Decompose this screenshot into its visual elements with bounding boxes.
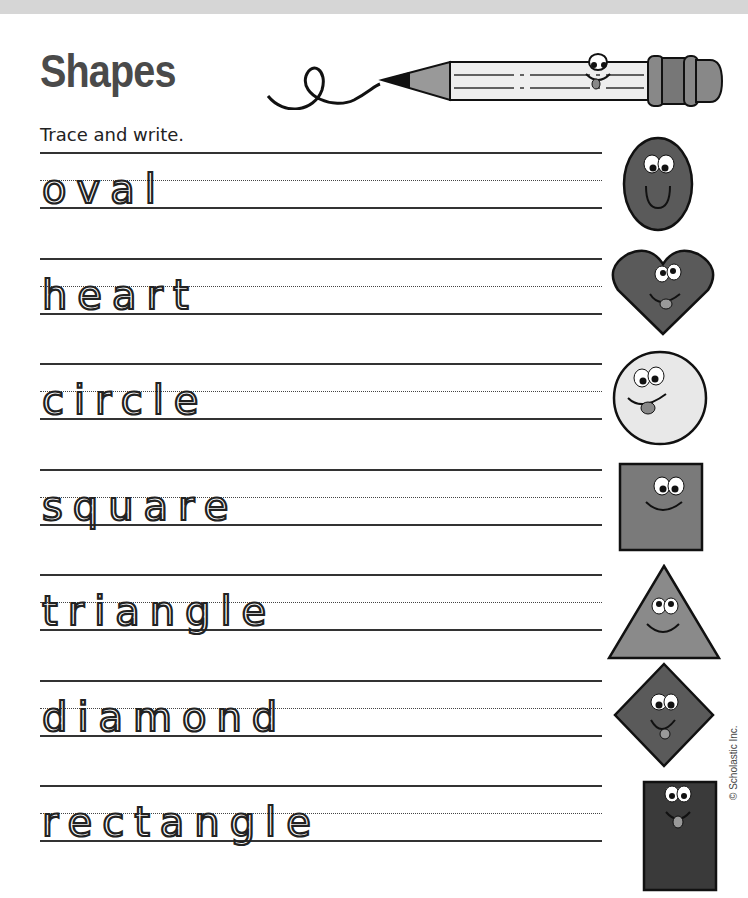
top-band [0,0,748,14]
writing-row-diamond[interactable]: diamond [40,680,602,737]
top-line [40,363,602,365]
writing-row-triangle[interactable]: triangle [40,574,602,631]
writing-row-oval[interactable]: oval [40,152,602,209]
trace-word: triangle [42,588,276,634]
top-line [40,680,602,682]
top-line [40,469,602,471]
top-line [40,258,602,260]
trace-word: oval [42,166,166,212]
oval-icon [622,136,694,232]
page-title: Shapes [40,44,176,98]
trace-word: rectangle [42,799,321,845]
trace-word: circle [42,377,208,423]
trace-word: square [42,483,238,529]
instruction-text: Trace and write. [40,124,184,145]
trace-word: heart [42,272,199,318]
writing-row-heart[interactable]: heart [40,258,602,315]
copyright-text: © Scholastic Inc. [728,725,739,800]
heart-icon [610,246,716,338]
writing-row-circle[interactable]: circle [40,363,602,420]
top-line [40,152,602,154]
diamond-icon [613,662,715,768]
pencil-icon [264,40,724,110]
top-line [40,785,602,787]
square-icon [618,462,704,552]
top-line [40,574,602,576]
rectangle-icon [642,778,718,892]
writing-row-rectangle[interactable]: rectangle [40,785,602,842]
trace-word: diamond [42,694,287,740]
triangle-icon [607,564,721,660]
circle-icon [612,350,708,446]
writing-row-square[interactable]: square [40,469,602,526]
